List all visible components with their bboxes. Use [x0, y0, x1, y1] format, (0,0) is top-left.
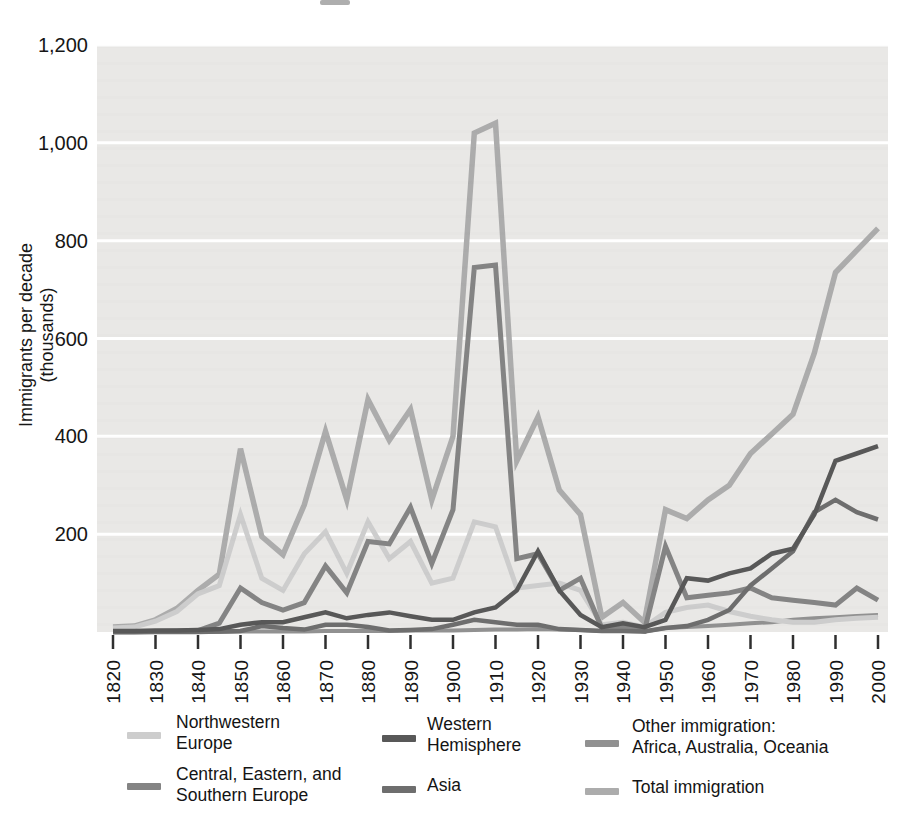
legend-label-total-immigration: Total immigration [632, 777, 764, 798]
x-tick-label-1920: 1920 [529, 658, 548, 706]
x-tick-label-1930: 1930 [571, 658, 590, 706]
legend-swatch-asia [382, 786, 416, 793]
x-tick-label-1980: 1980 [784, 658, 803, 706]
x-tick-label-1880: 1880 [359, 658, 378, 706]
x-tick-label-1910: 1910 [486, 658, 505, 706]
cropped-print-artifact [320, 0, 350, 5]
legend-label-northwestern-europe: Northwestern Europe [176, 712, 280, 754]
x-tick-label-1870: 1870 [316, 658, 335, 706]
y-tick-label-400: 400 [14, 425, 88, 447]
plot-svg [97, 45, 888, 655]
y-tick-label-800: 800 [14, 230, 88, 252]
x-tick-label-1960: 1960 [699, 658, 718, 706]
legend-label-other-immigration: Other immigration: Africa, Australia, Oc… [632, 716, 828, 758]
legend-swatch-total-immigration [585, 788, 619, 795]
x-tick-label-1840: 1840 [189, 658, 208, 706]
legend-swatch-other-immigration [585, 740, 619, 747]
x-tick-label-1990: 1990 [826, 658, 845, 706]
x-tick-label-1820: 1820 [104, 658, 123, 706]
y-tick-label-600: 600 [14, 328, 88, 350]
x-tick-label-1970: 1970 [741, 658, 760, 706]
figure-page: Immigrants per decade (thousands) 200400… [0, 0, 923, 839]
y-tick-label-1,000: 1,000 [14, 132, 88, 154]
x-tick-label-1860: 1860 [274, 658, 293, 706]
legend-swatch-central-eastern-southern-europe [127, 783, 161, 790]
x-tick-label-2000: 2000 [869, 658, 888, 706]
x-tick-label-1940: 1940 [614, 658, 633, 706]
x-tick-label-1950: 1950 [656, 658, 675, 706]
x-tick-label-1850: 1850 [231, 658, 250, 706]
x-tick-label-1890: 1890 [401, 658, 420, 706]
legend-label-asia: Asia [427, 775, 461, 796]
x-tick-label-1900: 1900 [444, 658, 463, 706]
x-tick-label-1830: 1830 [146, 658, 165, 706]
y-tick-label-1,200: 1,200 [14, 34, 88, 56]
legend-swatch-western-hemisphere [382, 735, 416, 742]
y-tick-label-200: 200 [14, 523, 88, 545]
legend-swatch-northwestern-europe [127, 732, 161, 739]
legend-label-central-eastern-southern-europe: Central, Eastern, and Southern Europe [176, 764, 341, 806]
legend-label-western-hemisphere: Western Hemisphere [427, 714, 521, 756]
